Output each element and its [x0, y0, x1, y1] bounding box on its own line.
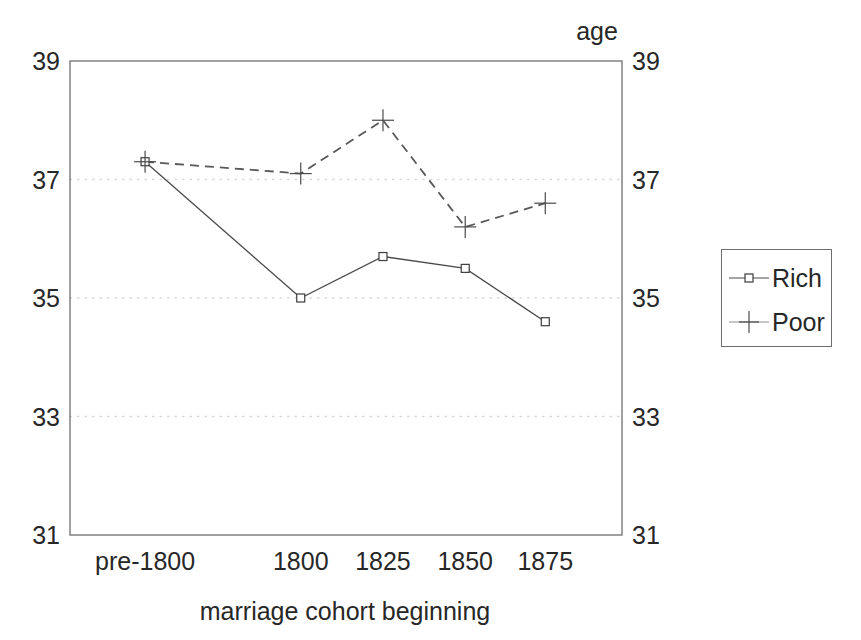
- legend: Rich Poor: [721, 249, 832, 347]
- y-axis-tick-label: 33: [12, 402, 60, 431]
- gridlines: [70, 180, 622, 417]
- y-axis-tick-label-right: 33: [632, 402, 660, 431]
- series-lines: [145, 120, 545, 321]
- legend-item-poor: Poor: [722, 307, 831, 337]
- y-axis-tick-label: 35: [12, 284, 60, 313]
- y-axis-tick-label-right: 39: [632, 47, 660, 76]
- y-axis-tick-label: 37: [12, 165, 60, 194]
- y-axis-tick-label-right: 37: [632, 165, 660, 194]
- y-axis-tick-label: 39: [12, 47, 60, 76]
- chart-figure: 3133353739 3133353739 pre-18001800182518…: [0, 0, 861, 640]
- legend-item-rich: Rich: [722, 263, 831, 293]
- x-axis-tick-label: 1800: [273, 547, 329, 576]
- legend-label-poor: Poor: [770, 309, 825, 335]
- legend-swatch-rich: [728, 265, 770, 291]
- x-axis-tick-label: pre-1800: [95, 547, 195, 576]
- legend-swatch-poor: [728, 309, 770, 335]
- y-axis-tick-label: 31: [12, 521, 60, 550]
- series-markers: [134, 109, 556, 325]
- y-axis-tick-label-right: 31: [632, 521, 660, 550]
- x-axis-tick-label: 1825: [355, 547, 411, 576]
- legend-label-rich: Rich: [770, 265, 822, 291]
- y-axis-tick-label-right: 35: [632, 284, 660, 313]
- x-axis-title: marriage cohort beginning: [200, 597, 490, 626]
- y-axis-title: age: [576, 17, 618, 46]
- x-axis-tick-label: 1875: [517, 547, 573, 576]
- x-axis-tick-label: 1850: [437, 547, 493, 576]
